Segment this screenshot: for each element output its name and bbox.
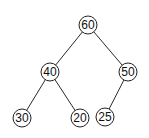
node-label: 50	[121, 65, 135, 79]
node-label: 30	[15, 111, 29, 125]
tree-node-30: 30	[13, 109, 31, 127]
node-label: 25	[98, 110, 112, 124]
node-label: 40	[43, 65, 57, 79]
tree-node-40: 40	[41, 63, 59, 81]
edges	[22, 25, 128, 118]
nodes: 60 40 50 30 20 25	[13, 16, 137, 127]
tree-node-60: 60	[79, 16, 97, 34]
node-label: 60	[81, 18, 95, 32]
node-label: 20	[73, 111, 87, 125]
tree-node-50: 50	[119, 63, 137, 81]
tree-diagram: 60 40 50 30 20 25	[0, 0, 149, 138]
tree-node-25: 25	[96, 108, 114, 126]
tree-node-20: 20	[71, 109, 89, 127]
